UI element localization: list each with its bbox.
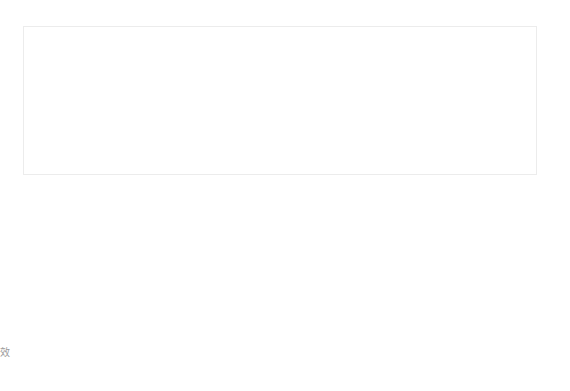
side-caption: 效 [0, 344, 10, 359]
illustration-border [24, 27, 537, 175]
dental-implant-diagram [0, 0, 570, 391]
